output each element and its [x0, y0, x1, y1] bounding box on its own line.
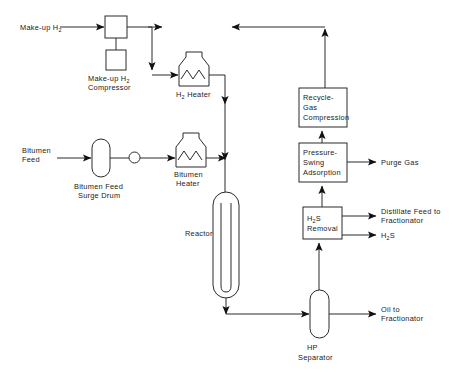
label-makeup-h2-stream: Make-up H2 — [20, 23, 62, 33]
label-makeup-compressor-line2: Compressor — [88, 83, 131, 92]
label-psa-line1: Pressure- — [303, 148, 338, 157]
pfd-canvas: Make-up H2 Make-up H2 Compressor H2 Heat… — [0, 0, 455, 382]
makeup-h2-compressor-driver — [106, 50, 126, 70]
label-oil-to-fractionator-line1: Oil to — [381, 305, 400, 314]
label-h2s-removal-line2: Removal — [307, 224, 338, 233]
makeup-h2-compressor-body — [105, 16, 127, 38]
label-distillate-feed-line1: Distillate Feed to — [381, 207, 441, 216]
label-distillate-feed-line2: Fractionator — [381, 216, 424, 225]
label-psa-line2: Swing — [303, 158, 324, 167]
label-surge-drum-line2: Surge Drum — [78, 191, 120, 200]
label-hp-separator-line2: Separator — [298, 353, 333, 362]
label-rgc-line3: Compression — [303, 113, 349, 122]
bitumen-heater-body — [176, 133, 206, 167]
label-h2-heater: H2 Heater — [176, 90, 211, 100]
bitumen-feed-surge-drum-body — [92, 139, 110, 177]
label-purge-gas: Purge Gas — [381, 158, 419, 167]
reactor-body — [213, 192, 239, 298]
label-hp-separator-line1: HP — [307, 343, 318, 352]
label-bitumen-feed-line2: Feed — [22, 155, 40, 164]
label-rgc-line1: Recycle- — [303, 93, 334, 102]
label-h2s-product: H2S — [381, 231, 395, 241]
label-bitumen-heater-line1: Bitumen — [174, 170, 203, 179]
label-psa-line3: Adsorption — [303, 168, 341, 177]
label-bitumen-feed-line1: Bitumen — [22, 146, 51, 155]
label-reactor: Reactor — [185, 229, 213, 238]
process-flow-diagram: Make-up H2 Make-up H2 Compressor H2 Heat… — [0, 0, 455, 382]
h2s-removal-body — [303, 207, 342, 239]
hp-separator-body — [310, 290, 329, 338]
label-oil-to-fractionator-line2: Fractionator — [381, 314, 424, 323]
stream-h2-heater-outlet — [209, 75, 225, 104]
label-bitumen-heater-line2: Heater — [176, 179, 200, 188]
label-rgc-line2: Gas — [303, 103, 317, 112]
feed-pump-body — [129, 152, 140, 163]
label-surge-drum-line1: Bitumen Feed — [74, 182, 123, 191]
h2-heater-body — [179, 52, 209, 86]
